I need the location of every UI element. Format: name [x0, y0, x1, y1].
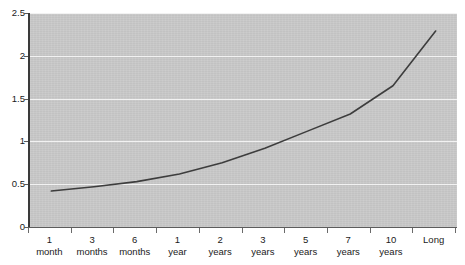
y-tick-label: 1: [0, 136, 25, 146]
x-tick-mark: [113, 228, 114, 233]
x-tick-mark: [412, 228, 413, 233]
line-series-yield: [30, 13, 457, 227]
x-tick-mark: [242, 228, 243, 233]
chart-figure: 00.511.522.5 1month3months6months1year2y…: [0, 0, 465, 265]
x-tick-label: Long: [402, 234, 465, 246]
x-tick-mark: [370, 228, 371, 233]
y-tick-label: 2: [0, 51, 25, 61]
y-tick-label: 1.5: [0, 94, 25, 104]
series-polyline: [51, 31, 435, 191]
x-tick-mark: [156, 228, 157, 233]
x-tick-mark: [199, 228, 200, 233]
plot-area: [28, 13, 457, 227]
y-tick-label: 0: [0, 222, 25, 232]
y-tick-label: 0.5: [0, 179, 25, 189]
x-tick-mark: [71, 228, 72, 233]
y-tick-label: 2.5: [0, 8, 25, 18]
x-tick-mark: [327, 228, 328, 233]
x-tick-mark: [28, 228, 29, 233]
x-tick-mark: [455, 228, 456, 233]
x-tick-mark: [284, 228, 285, 233]
